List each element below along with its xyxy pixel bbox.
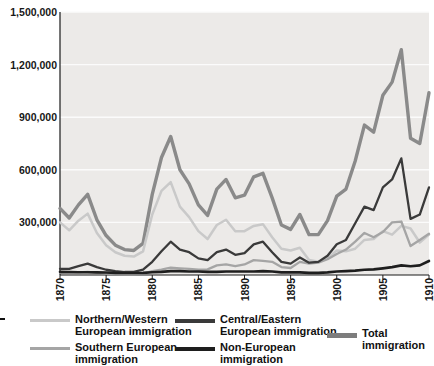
legend-swatch-icon [30,319,70,322]
legend-swatch-icon [327,333,357,338]
x-tick-label-1880: 1880 [146,278,158,301]
x-tick-label-1910: 1910 [423,278,434,301]
x-tick-label-1900: 1900 [331,278,343,301]
x-tick-label-1905: 1905 [377,278,389,301]
legend-label: Total immigration [362,328,434,351]
legend-label: Central/Eastern European immigration [220,314,337,337]
legend-item-2[interactable]: Central/Eastern European immigration [175,314,337,337]
x-tick-label-1895: 1895 [285,278,297,301]
legend-label: Southern European immigration [75,342,177,365]
x-tick-label-1885: 1885 [192,278,204,301]
legend-item-0[interactable]: Northern/Western European immigration [30,314,192,337]
legend-item-3[interactable]: Non-European immigration [175,342,296,365]
chart-legend: Northern/Western European immigrationSou… [0,312,434,366]
legend-item-1[interactable]: Southern European immigration [30,342,177,365]
legend-label: Non-European immigration [220,342,296,365]
legend-item-4[interactable]: Total immigration [327,328,434,351]
legend-swatch-icon [30,347,70,350]
x-tick-label-1870: 1870 [54,278,66,301]
legend-swatch-icon [175,319,215,323]
x-tick-label-1890: 1890 [239,278,251,301]
legend-swatch-icon [175,347,215,351]
x-tick-label-1875: 1875 [100,278,112,301]
chart-figure: 300,000600,000900,0001,200,0001,500,000 … [0,0,434,366]
